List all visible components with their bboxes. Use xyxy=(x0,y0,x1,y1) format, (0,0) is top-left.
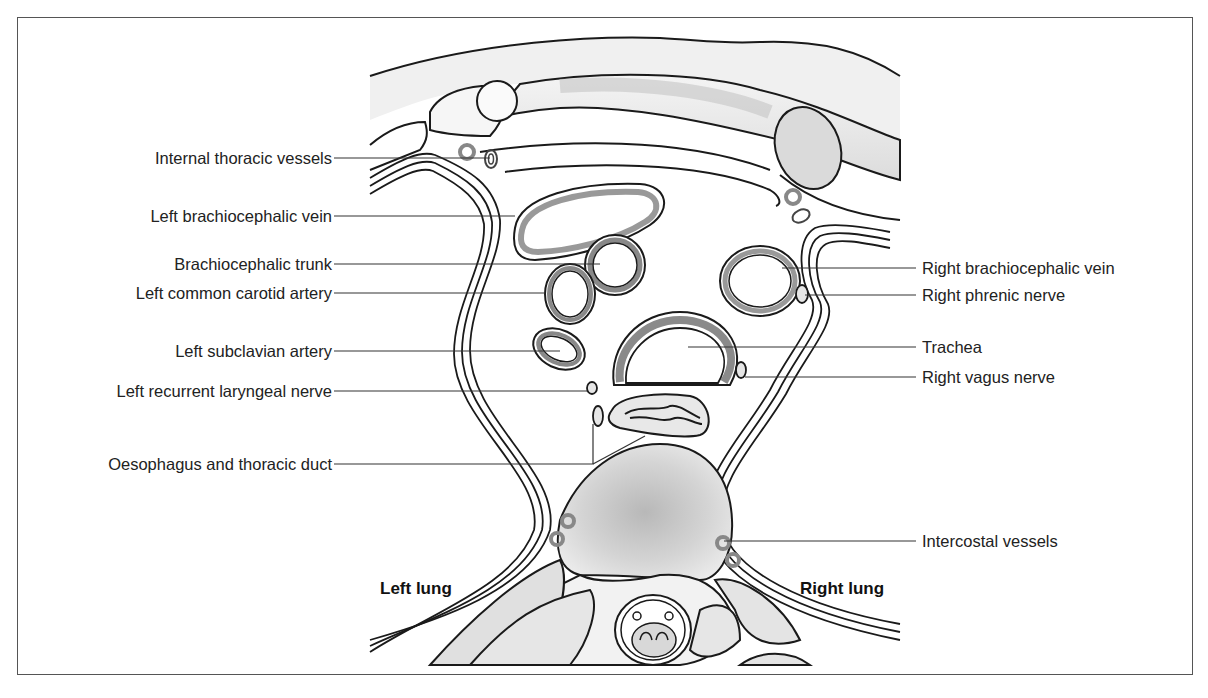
label-internal-thoracic-vessels: Internal thoracic vessels xyxy=(155,148,332,168)
left-subclavian-artery xyxy=(526,320,591,377)
left-recurrent-laryngeal-nerve xyxy=(587,382,597,394)
right-brachiocephalic-vein xyxy=(720,246,800,316)
label-right-lung: Right lung xyxy=(800,579,884,599)
thoracic-duct xyxy=(593,406,603,426)
label-brachiocephalic-trunk: Brachiocephalic trunk xyxy=(174,254,332,274)
right-phrenic-nerve xyxy=(796,285,808,303)
label-right-vagus-nerve: Right vagus nerve xyxy=(922,367,1055,387)
label-right-brachiocephalic-vein: Right brachiocephalic vein xyxy=(922,258,1115,278)
label-left-brachiocephalic-vein: Left brachiocephalic vein xyxy=(150,206,332,226)
label-trachea: Trachea xyxy=(922,337,982,357)
right-vagus-nerve xyxy=(736,362,746,378)
left-common-carotid-artery xyxy=(545,264,595,324)
label-oesophagus-and-thoracic-duct: Oesophagus and thoracic duct xyxy=(108,454,332,474)
label-right-phrenic-nerve: Right phrenic nerve xyxy=(922,285,1065,305)
trachea xyxy=(613,312,737,385)
label-left-subclavian-artery: Left subclavian artery xyxy=(175,341,332,361)
oesophagus xyxy=(609,394,709,436)
label-intercostal-vessels: Intercostal vessels xyxy=(922,531,1058,551)
label-left-common-carotid-artery: Left common carotid artery xyxy=(136,283,332,303)
label-left-lung: Left lung xyxy=(380,579,452,599)
label-left-recurrent-laryngeal-nerve: Left recurrent laryngeal nerve xyxy=(116,381,332,401)
